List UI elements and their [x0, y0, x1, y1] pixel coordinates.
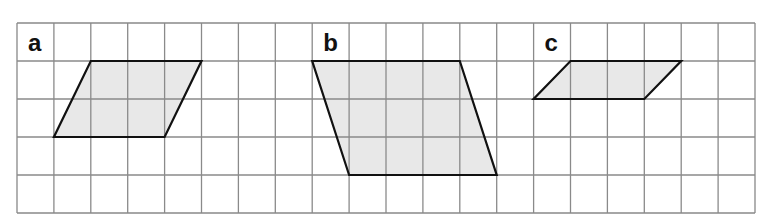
label-b: b [323, 29, 338, 56]
grid-lines [17, 23, 755, 213]
label-c: c [545, 29, 558, 56]
shapes-layer [54, 61, 681, 175]
shape-labels: a b c [28, 29, 558, 56]
parallelogram-grid-diagram: a b c [0, 0, 766, 220]
label-a: a [28, 29, 42, 56]
parallelogram-b-fill [312, 61, 497, 175]
